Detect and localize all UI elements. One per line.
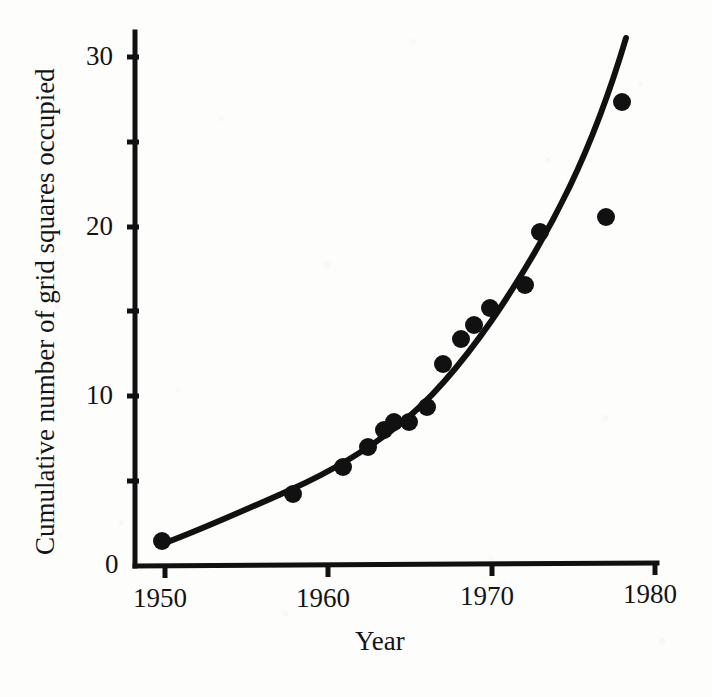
data-points — [153, 93, 631, 550]
x-axis-title: Year — [355, 626, 405, 657]
y-tick-label-10: 10 — [86, 382, 113, 409]
y-tick-label-30: 30 — [86, 43, 113, 70]
data-point — [334, 458, 352, 476]
data-point — [418, 398, 436, 416]
x-axis-line — [135, 563, 657, 566]
data-point — [359, 438, 377, 456]
data-point — [452, 330, 470, 348]
y-tick-label-20: 20 — [86, 213, 113, 240]
x-tick-label-1950: 1950 — [133, 585, 187, 612]
scatter-plot-canvas — [0, 0, 712, 697]
y-tick-label-0: 0 — [105, 551, 119, 578]
x-tick-label-1970: 1970 — [460, 583, 514, 610]
data-point — [597, 208, 615, 226]
data-point — [284, 485, 302, 503]
x-tick-label-1960: 1960 — [296, 585, 350, 612]
data-point — [481, 299, 499, 317]
x-tick-label-1980: 1980 — [623, 581, 677, 608]
data-point — [400, 413, 418, 431]
data-point — [434, 355, 452, 373]
figure-page: 30 20 10 0 1950 1960 1970 1980 Cumulativ… — [0, 0, 712, 697]
data-point — [465, 316, 483, 334]
data-point — [153, 532, 171, 550]
fit-curve — [165, 38, 626, 543]
data-point — [531, 223, 549, 241]
data-point — [613, 93, 631, 111]
y-axis-title: Cumulative number of grid squares occupi… — [30, 68, 61, 555]
data-point — [516, 276, 534, 294]
